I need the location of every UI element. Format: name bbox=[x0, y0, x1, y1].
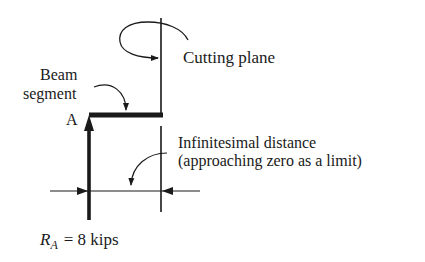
beam-free-body-diagram: Cutting plane Beam segment A Infinitesim… bbox=[0, 0, 425, 262]
dimension-arrow-right-icon bbox=[162, 187, 173, 195]
reaction-symbol: R bbox=[39, 230, 51, 249]
beam-segment bbox=[89, 113, 163, 118]
reaction-value: = 8 kips bbox=[64, 230, 119, 249]
beam-pointer-arrow-icon bbox=[94, 85, 126, 110]
reaction-subscript: A bbox=[49, 238, 58, 252]
distance-label-line2: (approaching zero as a limit) bbox=[178, 152, 362, 170]
beam-label-line2: segment bbox=[23, 85, 77, 103]
distance-label-line1: Infinitesimal distance bbox=[178, 134, 316, 151]
point-a-label: A bbox=[66, 111, 78, 128]
reaction-label: RA= 8 kips bbox=[39, 230, 119, 252]
cutting-plane-label: Cutting plane bbox=[183, 48, 275, 67]
rotation-arrow-icon bbox=[120, 22, 188, 58]
beam-label-line1: Beam bbox=[40, 66, 78, 83]
dimension-arrow-left-icon bbox=[77, 187, 88, 195]
